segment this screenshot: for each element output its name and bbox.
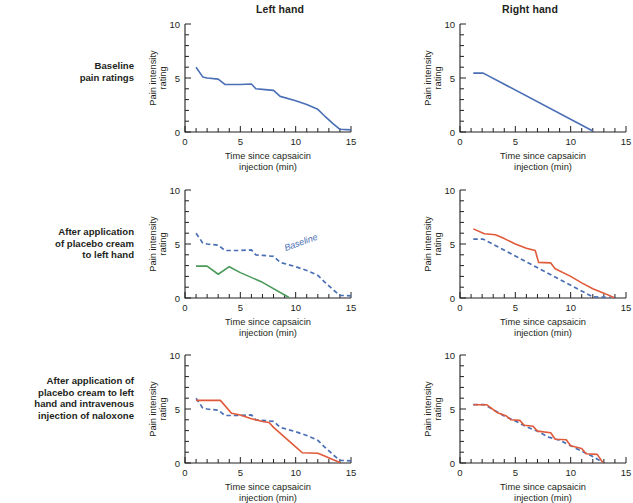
svg-text:Time since capsaicininjection: Time since capsaicininjection (min)	[500, 482, 586, 503]
svg-text:Pain intensityrating: Pain intensityrating	[423, 50, 444, 106]
svg-text:Time since capsaicininjection: Time since capsaicininjection (min)	[225, 317, 311, 338]
svg-text:10: 10	[565, 467, 576, 478]
svg-text:Baseline: Baseline	[283, 232, 319, 253]
chart-panel-baseline-right-hand: 0510150510Pain intensityratingTime since…	[418, 14, 633, 174]
svg-text:10: 10	[444, 350, 455, 361]
svg-text:Time since capsaicininjection: Time since capsaicininjection (min)	[500, 151, 586, 172]
svg-text:5: 5	[238, 302, 243, 313]
svg-text:10: 10	[290, 136, 301, 147]
svg-text:0: 0	[182, 302, 187, 313]
svg-text:Pain intensityrating: Pain intensityrating	[148, 381, 169, 437]
svg-text:0: 0	[175, 127, 180, 138]
svg-text:10: 10	[444, 185, 455, 196]
svg-text:5: 5	[513, 136, 518, 147]
svg-text:0: 0	[457, 136, 462, 147]
svg-text:Time since capsaicininjection: Time since capsaicininjection (min)	[225, 151, 311, 172]
chart-panel-placebo-left-hand: 0510150510Pain intensityratingTime since…	[143, 180, 358, 340]
svg-text:Pain intensityrating: Pain intensityrating	[148, 216, 169, 272]
chart-panel-placebo-right-hand: 0510150510Pain intensityratingTime since…	[418, 180, 633, 340]
svg-text:5: 5	[513, 467, 518, 478]
row-label-naloxone: After application ofplacebo cream to lef…	[2, 375, 134, 421]
svg-text:10: 10	[444, 19, 455, 30]
row-label-baseline: Baselinepain ratings	[2, 60, 134, 83]
svg-text:5: 5	[175, 404, 180, 415]
svg-text:0: 0	[450, 127, 455, 138]
svg-text:0: 0	[182, 136, 187, 147]
svg-text:5: 5	[175, 239, 180, 250]
chart-panel-baseline-left-hand: 0510150510Pain intensityratingTime since…	[143, 14, 358, 174]
svg-text:Pain intensityrating: Pain intensityrating	[148, 50, 169, 106]
svg-text:0: 0	[175, 293, 180, 304]
svg-text:5: 5	[450, 239, 455, 250]
svg-text:Pain intensityrating: Pain intensityrating	[423, 216, 444, 272]
svg-text:5: 5	[238, 136, 243, 147]
svg-text:15: 15	[346, 302, 357, 313]
svg-text:15: 15	[621, 467, 632, 478]
svg-text:5: 5	[450, 404, 455, 415]
svg-text:0: 0	[450, 458, 455, 469]
svg-text:5: 5	[238, 467, 243, 478]
svg-text:10: 10	[565, 302, 576, 313]
svg-text:10: 10	[169, 350, 180, 361]
chart-panel-naloxone-left-hand: 0510150510Pain intensityratingTime since…	[143, 345, 358, 503]
svg-text:10: 10	[169, 185, 180, 196]
svg-text:5: 5	[513, 302, 518, 313]
svg-text:0: 0	[175, 458, 180, 469]
svg-text:10: 10	[290, 302, 301, 313]
svg-text:0: 0	[182, 467, 187, 478]
svg-text:0: 0	[457, 302, 462, 313]
svg-text:5: 5	[175, 73, 180, 84]
svg-text:10: 10	[169, 19, 180, 30]
svg-text:10: 10	[565, 136, 576, 147]
svg-text:10: 10	[290, 467, 301, 478]
svg-text:15: 15	[621, 302, 632, 313]
svg-text:15: 15	[346, 467, 357, 478]
svg-text:5: 5	[450, 73, 455, 84]
row-label-placebo: After applicationof placebo creamto left…	[2, 226, 134, 261]
svg-text:Time since capsaicininjection: Time since capsaicininjection (min)	[225, 482, 311, 503]
svg-text:Time since capsaicininjection: Time since capsaicininjection (min)	[500, 317, 586, 338]
svg-text:Pain intensityrating: Pain intensityrating	[423, 381, 444, 437]
chart-panel-naloxone-right-hand: 0510150510Pain intensityratingTime since…	[418, 345, 633, 503]
svg-text:0: 0	[450, 293, 455, 304]
svg-text:0: 0	[457, 467, 462, 478]
svg-text:15: 15	[621, 136, 632, 147]
svg-text:15: 15	[346, 136, 357, 147]
